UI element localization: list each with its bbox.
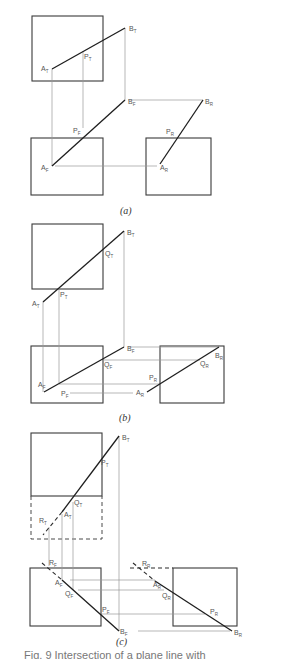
label-b-side: BR: [205, 98, 214, 107]
label-r-front: RF: [49, 559, 57, 568]
caption-a: (a): [120, 205, 132, 217]
label-a-front: AF: [38, 381, 46, 390]
label-q-top: QT: [74, 499, 82, 508]
line-ab-top: [62, 436, 119, 512]
top-view-plane: [31, 433, 102, 496]
label-a-side: AR: [136, 389, 145, 398]
label-p-side: PR: [166, 128, 175, 137]
label-q-side: QR: [200, 360, 209, 369]
label-q-front: QF: [104, 361, 112, 370]
label-r-top: RT: [39, 517, 47, 526]
front-view-plane: [30, 568, 101, 626]
caption-c: (c): [116, 636, 128, 648]
line-ab-side: [147, 347, 219, 392]
label-a-top: AT: [32, 300, 40, 309]
side-view-plane: [173, 568, 237, 626]
line-ab-front: [62, 580, 119, 631]
label-a-top: AT: [41, 65, 49, 74]
panel-c: BT PT QT AT RT RF AF QF PF BF RR AR QR P…: [30, 433, 243, 648]
label-b-top: BT: [122, 434, 130, 443]
label-b-top: BT: [129, 25, 137, 34]
label-p-side: PR: [210, 608, 219, 617]
label-p-front: PF: [61, 390, 69, 399]
label-q-side: QR: [162, 592, 171, 601]
line-ab-top: [43, 231, 124, 302]
label-b-front: BF: [128, 98, 136, 107]
caption-b: (b): [119, 412, 131, 424]
label-p-top: PT: [84, 53, 92, 62]
panel-b: BT QT PT AT BF QF AF PF AR PR BR QR (b): [31, 224, 224, 424]
label-p-top: PT: [60, 291, 68, 300]
top-view-plane: [32, 224, 103, 289]
label-a-front: AF: [55, 579, 63, 588]
line-ab-side: [155, 581, 232, 631]
label-b-side: BR: [234, 629, 243, 638]
label-p-side: PR: [149, 374, 158, 383]
label-r-side: RR: [142, 560, 151, 569]
label-b-front: BF: [127, 345, 135, 354]
label-b-side: BR: [215, 352, 224, 361]
label-q-top: QT: [105, 250, 113, 259]
label-p-front: PF: [73, 127, 81, 136]
line-ab-front: [52, 100, 125, 166]
side-view-plane: [146, 138, 211, 195]
label-a-side: AR: [153, 581, 162, 590]
label-b-top: BT: [127, 229, 135, 238]
label-q-front: QF: [65, 590, 73, 599]
label-a-side: AR: [160, 164, 169, 173]
line-ab-top: [52, 28, 125, 69]
figure-caption-partial: Fig. 9 Intersection of a plane line with: [24, 649, 264, 659]
label-a-top: AT: [64, 511, 72, 520]
label-a-front: AF: [41, 164, 49, 173]
panel-a: BT PT AT BF BR PF PR AF AR (a): [31, 16, 214, 217]
